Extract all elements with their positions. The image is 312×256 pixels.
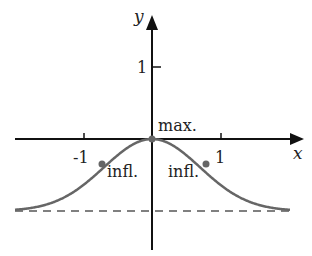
inflection-label-left: infl. bbox=[107, 162, 138, 181]
inflection-point-right bbox=[203, 161, 210, 168]
max-label: max. bbox=[158, 116, 197, 135]
y-axis-arrow-icon bbox=[146, 15, 158, 30]
inflection-label-right: infl. bbox=[168, 162, 199, 181]
chart: y x -1 1 1 max. infl. infl. bbox=[0, 0, 312, 256]
max-point bbox=[149, 136, 156, 143]
y-axis-label: y bbox=[133, 6, 144, 26]
inflection-point-left bbox=[99, 161, 106, 168]
y-tick-label-1: 1 bbox=[137, 58, 147, 77]
x-axis-label: x bbox=[293, 143, 303, 163]
x-tick-label-pos1: 1 bbox=[215, 148, 225, 167]
x-tick-label-neg1: -1 bbox=[73, 148, 89, 167]
